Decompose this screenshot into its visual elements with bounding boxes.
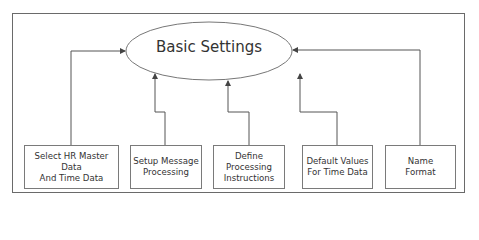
node-define-processing-instructions: Define ProcessingInstructions (213, 145, 285, 189)
node-label-line: Setup Message (133, 156, 198, 167)
node-label-line: Define Processing (214, 151, 284, 173)
node-label-line: And Time Data (25, 173, 118, 184)
node-name-format: NameFormat (385, 145, 456, 189)
node-label-line: Processing (133, 167, 198, 178)
edge-select-hr (71, 51, 125, 145)
edge-default-values (300, 74, 337, 145)
edge-setup-message (155, 74, 165, 145)
node-default-values-time-data: Default ValuesFor Time Data (302, 145, 373, 189)
node-label-line: Format (405, 167, 435, 178)
node-label-line: Name (405, 156, 435, 167)
node-setup-message-processing: Setup MessageProcessing (130, 145, 202, 189)
node-label-line: For Time Data (306, 167, 368, 178)
node-select-hr-master-data: Select HR Master DataAnd Time Data (24, 145, 119, 189)
node-label-line: Select HR Master Data (25, 151, 118, 173)
edge-define-processing (228, 81, 249, 145)
edge-name-format (293, 50, 420, 145)
center-node-label: Basic Settings (126, 38, 292, 56)
node-label-line: Instructions (214, 173, 284, 184)
node-label-line: Default Values (306, 156, 368, 167)
